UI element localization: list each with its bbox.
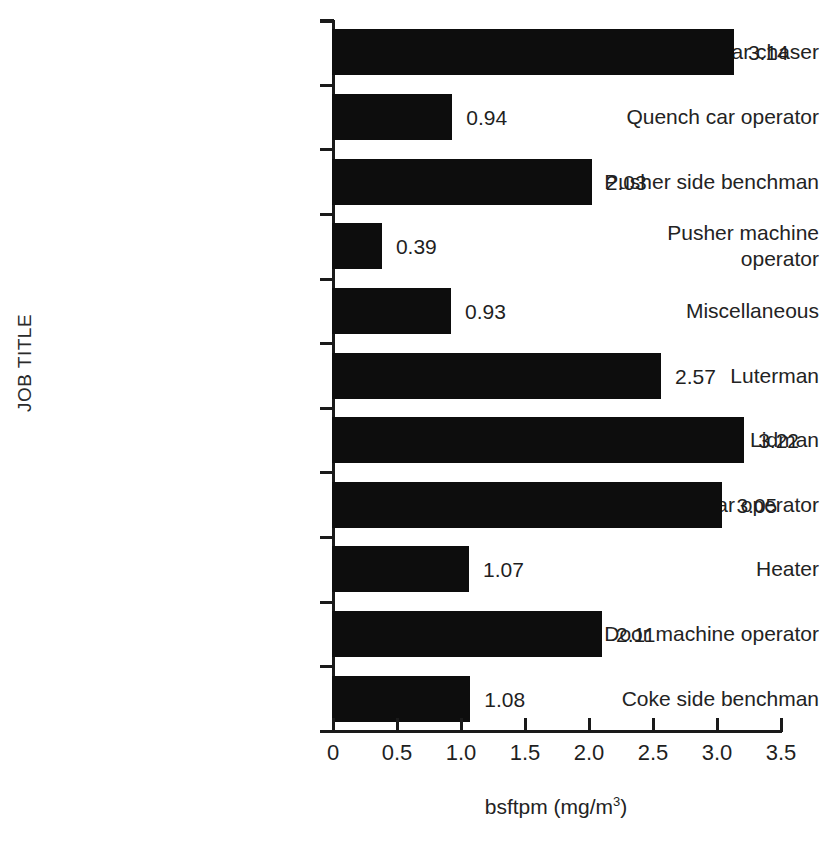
x-axis-tick-label: 1.5 <box>510 740 541 766</box>
bar-chart: JOB TITLE Tar chaserQuench car operatorP… <box>0 0 833 855</box>
bar-value-label: 0.94 <box>466 107 507 128</box>
bar-value-label: 3.14 <box>748 42 789 63</box>
y-axis-title: JOB TITLE <box>14 283 36 443</box>
x-axis-tick-label: 1.0 <box>446 740 477 766</box>
x-axis-tick-label: 3.0 <box>702 740 733 766</box>
x-axis-tick-label: 0 <box>327 740 339 766</box>
bar-value-label: 1.07 <box>483 559 524 580</box>
x-axis-tick-label: 3.5 <box>766 740 797 766</box>
x-axis-tick <box>652 718 655 732</box>
x-axis-tick <box>588 718 591 732</box>
x-axis-title-tail: ) <box>620 795 627 818</box>
bar <box>332 611 602 657</box>
bar-value-label: 3.22 <box>758 430 799 451</box>
bar <box>332 353 661 399</box>
bar-value-label: 2.11 <box>616 624 655 645</box>
x-axis-title-base: bsftpm (mg/m <box>485 795 613 818</box>
x-axis-tick <box>524 718 527 732</box>
bar <box>332 482 722 528</box>
bar <box>332 159 592 205</box>
bar <box>332 29 734 75</box>
x-axis-tick-label: 2.0 <box>574 740 605 766</box>
x-axis-title: bsftpm (mg/m3) <box>332 795 780 819</box>
bar <box>332 417 744 463</box>
bar <box>332 546 469 592</box>
x-axis-tick-label: 2.5 <box>638 740 669 766</box>
bar-value-label: 0.93 <box>465 301 506 322</box>
bar-value-label: 0.39 <box>396 236 437 257</box>
x-axis-tick-label: 0.5 <box>382 740 413 766</box>
bar-value-label: 3.05 <box>736 495 777 516</box>
bar <box>332 288 451 334</box>
bar-value-label: 2.57 <box>675 366 716 387</box>
bar-value-label: 1.08 <box>484 689 525 710</box>
x-axis-tick <box>716 718 719 732</box>
x-axis-tick <box>332 718 335 732</box>
x-axis-tick <box>460 718 463 732</box>
bar <box>332 223 382 269</box>
bar <box>332 94 452 140</box>
bar <box>332 676 470 722</box>
x-axis-tick <box>780 718 783 732</box>
plot-area: 3.140.942.030.390.932.573.223.051.072.11… <box>332 20 780 731</box>
bar-value-label: 2.03 <box>606 172 647 193</box>
x-axis-tick <box>396 718 399 732</box>
